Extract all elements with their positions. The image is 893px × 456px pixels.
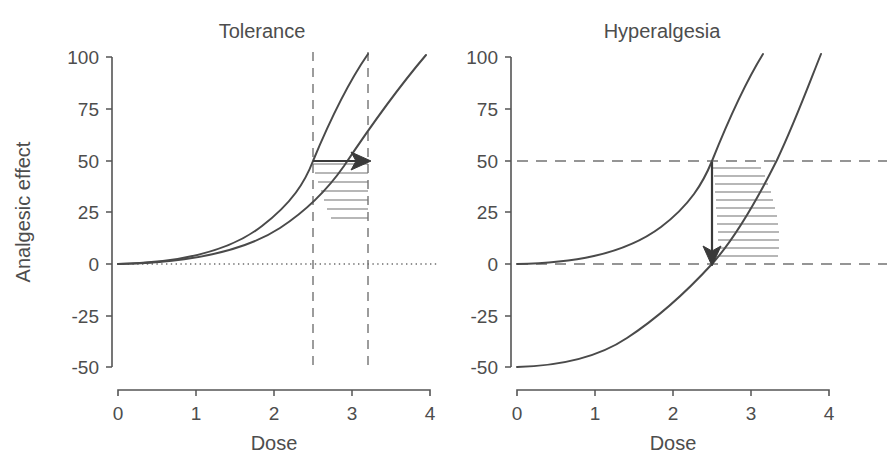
y-tick-label-neg50: -50 [72, 357, 99, 378]
y-tick-label-neg50: -50 [471, 357, 498, 378]
x-tick-label-4: 4 [425, 403, 436, 424]
x-axis-title: Dose [251, 432, 298, 454]
x-tick-label-0: 0 [512, 403, 523, 424]
y-tick-label-75: 75 [78, 99, 99, 120]
dose-response-figure: Tolerance 100 75 50 25 0 -25 -50 Analges… [0, 0, 893, 456]
y-tick-label-0: 0 [487, 254, 498, 275]
x-tick-label-2: 2 [269, 403, 280, 424]
x-tick-label-3: 3 [746, 403, 757, 424]
y-tick-label-neg25: -25 [471, 306, 498, 327]
y-tick-label-50: 50 [477, 151, 498, 172]
y-tick-label-100: 100 [67, 47, 99, 68]
x-tick-label-4: 4 [824, 403, 835, 424]
x-axis-title: Dose [650, 432, 697, 454]
x-tick-label-3: 3 [347, 403, 358, 424]
panel-hyperalgesia: Hyperalgesia 100 75 50 25 0 -25 -50 0 1 … [447, 0, 893, 456]
x-tick-label-1: 1 [191, 403, 202, 424]
y-tick-label-25: 25 [477, 202, 498, 223]
curve-hyperalgesic [517, 54, 821, 367]
y-axis-title: Analgesic effect [12, 141, 34, 282]
hyperalgesia-plot: Hyperalgesia 100 75 50 25 0 -25 -50 0 1 … [447, 0, 893, 456]
tolerance-plot: Tolerance 100 75 50 25 0 -25 -50 Analges… [0, 0, 446, 456]
y-tick-label-0: 0 [88, 254, 99, 275]
x-tick-label-1: 1 [590, 403, 601, 424]
curve-tolerant [118, 55, 426, 264]
x-tick-label-2: 2 [668, 403, 679, 424]
y-tick-label-50: 50 [78, 151, 99, 172]
x-tick-label-0: 0 [113, 403, 124, 424]
panel-tolerance: Tolerance 100 75 50 25 0 -25 -50 Analges… [0, 0, 446, 456]
y-tick-label-neg25: -25 [72, 306, 99, 327]
y-tick-label-25: 25 [78, 202, 99, 223]
panel-title-tolerance: Tolerance [219, 20, 306, 42]
panel-title-hyperalgesia: Hyperalgesia [604, 20, 722, 42]
curve-baseline [118, 54, 368, 264]
hatched-shift-region [713, 168, 779, 256]
y-tick-label-100: 100 [466, 47, 498, 68]
y-tick-label-75: 75 [477, 99, 498, 120]
